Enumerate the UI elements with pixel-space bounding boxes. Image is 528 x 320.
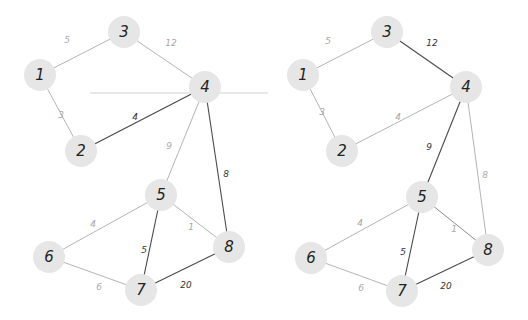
edge-weight-4-8: 8 (482, 170, 488, 180)
node-3: 3 (108, 16, 140, 48)
node-5: 5 (145, 179, 177, 211)
edge-weight-4-8: 8 (223, 169, 229, 179)
node-label: 2 (76, 142, 86, 160)
edge-weight-5-8: 1 (188, 222, 194, 232)
node-group: 12345678 (287, 16, 504, 307)
node-label: 8 (483, 241, 493, 259)
node-3: 3 (371, 16, 403, 48)
edge-2-4 (81, 87, 205, 151)
edge-weight-7-8: 20 (180, 280, 192, 290)
node-label: 7 (136, 281, 146, 299)
result-graph: 5123498451620 12345678 (287, 16, 504, 307)
node-5: 5 (406, 181, 438, 213)
edge-weight-1-3: 5 (325, 36, 331, 46)
node-1: 1 (24, 59, 56, 91)
node-label: 5 (156, 186, 166, 204)
node-label: 8 (224, 238, 234, 256)
node-label: 2 (337, 142, 347, 160)
node-group: 12345678 (24, 16, 245, 306)
node-7: 7 (386, 275, 418, 307)
edge-weight-6-7: 6 (358, 283, 364, 293)
edge-weight-2-4: 4 (395, 112, 401, 122)
edge-weight-7-8: 20 (440, 281, 452, 291)
node-label: 4 (200, 78, 210, 96)
node-2: 2 (326, 135, 358, 167)
node-4: 4 (189, 71, 221, 103)
node-label: 5 (417, 188, 427, 206)
edge-weight-5-6: 4 (90, 219, 96, 229)
edge-weight-1-2: 3 (58, 110, 64, 120)
node-2: 2 (65, 135, 97, 167)
node-label: 7 (397, 282, 407, 300)
node-1: 1 (287, 59, 319, 91)
edge-4-8 (205, 87, 229, 247)
edge-weight-6-7: 6 (96, 282, 102, 292)
node-7: 7 (125, 274, 157, 306)
node-label: 6 (306, 249, 316, 267)
edge-weight-4-5: 9 (426, 142, 432, 152)
node-8: 8 (472, 234, 504, 266)
edge-weight-3-4: 12 (165, 38, 177, 48)
graph-canvas: 5123498451620 12345678 5123498451620 123… (0, 0, 528, 320)
edge-group (40, 32, 229, 290)
edge-weight-5-7: 5 (141, 245, 147, 255)
node-label: 3 (382, 23, 392, 41)
node-4: 4 (450, 71, 482, 103)
edge-weight-5-6: 4 (357, 218, 363, 228)
node-label: 6 (44, 248, 54, 266)
node-label: 3 (119, 23, 129, 41)
node-label: 1 (35, 66, 45, 84)
node-6: 6 (295, 242, 327, 274)
edge-2-4 (342, 87, 466, 151)
node-label: 1 (298, 66, 308, 84)
edge-weight-3-4: 12 (426, 38, 438, 48)
node-label: 4 (461, 78, 471, 96)
node-6: 6 (33, 241, 65, 273)
edge-weight-1-3: 5 (64, 35, 70, 45)
edge-weight-1-2: 3 (319, 107, 325, 117)
edge-weight-2-4: 4 (132, 112, 138, 122)
edge-4-8 (466, 87, 488, 250)
edge-weight-5-8: 1 (451, 224, 457, 234)
edge-weight-4-5: 9 (166, 141, 172, 151)
original-graph: 5123498451620 12345678 (24, 16, 245, 306)
node-8: 8 (213, 231, 245, 263)
edge-weight-5-7: 5 (400, 247, 406, 257)
